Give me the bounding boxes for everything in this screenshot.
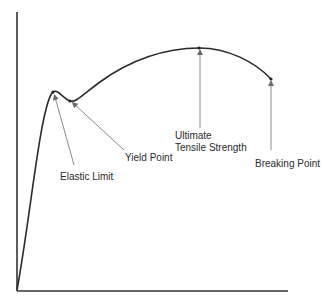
elastic-limit-point bbox=[51, 90, 54, 93]
breaking-point-label: Breaking Point bbox=[255, 158, 320, 169]
uts-label-line2: Tensile Strength bbox=[175, 142, 247, 153]
uts-point-marker bbox=[197, 46, 200, 49]
yield-point-pointer bbox=[74, 104, 124, 150]
yield-point-label: Yield Point bbox=[125, 152, 173, 163]
stress-strain-curve bbox=[17, 48, 271, 290]
yield-point-marker bbox=[68, 99, 71, 102]
uts-label-line1: Ultimate bbox=[175, 130, 212, 141]
elastic-limit-pointer bbox=[55, 97, 74, 165]
breaking-point-marker bbox=[269, 77, 272, 80]
elastic-limit-label: Elastic Limit bbox=[60, 171, 114, 182]
stress-strain-diagram: Elastic Limit Yield Point Ultimate Tensi… bbox=[0, 0, 324, 302]
